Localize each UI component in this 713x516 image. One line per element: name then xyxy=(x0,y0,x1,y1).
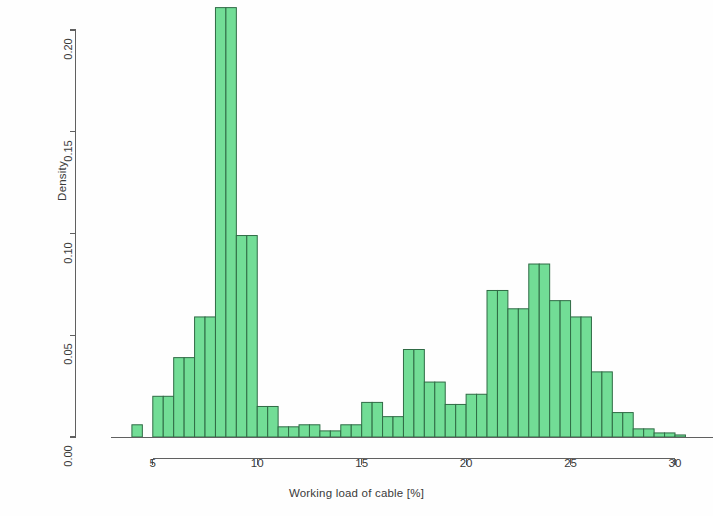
x-tick-label: 15 xyxy=(342,457,382,469)
histogram-bar xyxy=(226,8,236,437)
histogram-bar xyxy=(153,396,163,437)
histogram-bar xyxy=(195,317,205,437)
histogram-bar xyxy=(445,404,455,437)
y-tick-label: 0.20 xyxy=(62,29,74,69)
histogram-bar xyxy=(591,372,601,437)
histogram-bar xyxy=(487,290,497,437)
histogram-bar xyxy=(299,425,309,437)
histogram-bar xyxy=(529,264,539,437)
x-tick-label: 10 xyxy=(237,457,277,469)
x-tick-label: 25 xyxy=(551,457,591,469)
histogram-bars xyxy=(132,8,686,437)
histogram-bar xyxy=(174,358,184,437)
histogram-bar xyxy=(289,427,299,437)
histogram-bar xyxy=(654,433,664,437)
histogram-bar xyxy=(309,425,319,437)
histogram-bar xyxy=(633,429,643,437)
histogram-bar xyxy=(665,433,675,437)
x-tick-label: 20 xyxy=(446,457,486,469)
histogram-bar xyxy=(424,382,434,437)
histogram-bar xyxy=(539,264,549,437)
x-tick-label: 30 xyxy=(655,457,695,469)
histogram-bar xyxy=(341,425,351,437)
y-tick-label: 0.10 xyxy=(62,233,74,273)
histogram-bar xyxy=(477,394,487,437)
histogram-bar xyxy=(247,236,257,437)
histogram-bar xyxy=(383,417,393,437)
y-tick-label: 0.15 xyxy=(62,131,74,171)
histogram-bar xyxy=(466,394,476,437)
histogram-bar xyxy=(215,8,225,437)
histogram-bar xyxy=(163,396,173,437)
histogram-bar xyxy=(268,406,278,437)
histogram-bar xyxy=(278,427,288,437)
histogram-bar xyxy=(132,425,142,437)
histogram-bar xyxy=(403,350,413,438)
histogram-bar xyxy=(644,429,654,437)
y-tick-label: 0.00 xyxy=(62,436,74,476)
histogram-bar xyxy=(550,301,560,437)
histogram-bar xyxy=(351,425,361,437)
y-tick-label: 0.05 xyxy=(62,334,74,374)
histogram-bar xyxy=(581,317,591,437)
histogram-bar xyxy=(560,301,570,437)
histogram-bar xyxy=(330,431,340,437)
histogram-bar xyxy=(612,413,622,437)
histogram-bar xyxy=(414,350,424,438)
histogram-bar xyxy=(257,406,267,437)
histogram-figure: Density Working load of cable [%] 0.000.… xyxy=(0,0,713,516)
histogram-bar xyxy=(602,372,612,437)
histogram-bar xyxy=(205,317,215,437)
histogram-bar xyxy=(320,431,330,437)
histogram-bar xyxy=(184,358,194,437)
histogram-bar xyxy=(236,236,246,437)
histogram-bar xyxy=(518,309,528,437)
histogram-bar xyxy=(362,402,372,437)
histogram-bar xyxy=(435,382,445,437)
histogram-bar xyxy=(571,317,581,437)
histogram-bar xyxy=(372,402,382,437)
histogram-bar xyxy=(623,413,633,437)
x-tick-label: 5 xyxy=(133,457,173,469)
histogram-bar xyxy=(456,404,466,437)
histogram-bar xyxy=(393,417,403,437)
histogram-bar xyxy=(497,290,507,437)
plot-canvas xyxy=(0,0,713,516)
histogram-bar xyxy=(508,309,518,437)
histogram-bar xyxy=(675,435,685,437)
